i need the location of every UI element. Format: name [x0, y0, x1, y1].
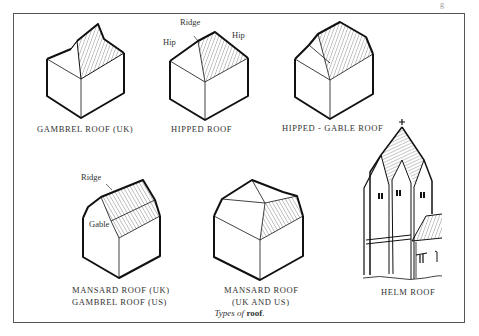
caption-mansard-uk-us-line2: (UK AND US) [232, 297, 290, 307]
caption-mansard-uk-line2: GAMBREL ROOF (US) [72, 297, 167, 307]
caption-gambrel-uk: GAMBREL ROOF (UK) [37, 124, 133, 134]
caption-mansard-uk-us-line1: MANSARD ROOF [224, 285, 299, 295]
mansard-uk-us-drawing [214, 180, 303, 280]
hipped-drawing [170, 32, 248, 120]
figure-caption-prefix: Types of [215, 308, 245, 318]
annotation-hip-left: Hip [163, 37, 176, 47]
annotation-gable-mansard: Gable [89, 219, 109, 229]
figure-caption-suffix: . [262, 308, 264, 318]
annotation-ridge-mansard: Ridge [81, 172, 101, 182]
figure-caption-term: roof [246, 308, 262, 318]
helm-roof-drawing [363, 119, 442, 280]
caption-mansard-uk-line1: MANSARD ROOF (UK) [72, 285, 170, 295]
annotation-ridge-hipped: Ridge [180, 17, 200, 27]
hipped-gable-drawing [295, 22, 373, 119]
caption-hipped-gable: HIPPED - GABLE ROOF [282, 123, 383, 133]
caption-hipped: HIPPED ROOF [171, 124, 232, 134]
gambrel-uk-drawing [47, 24, 124, 118]
mansard-uk-drawing [83, 180, 160, 278]
annotation-hip-right: Hip [232, 30, 245, 40]
figure-caption: Types of roof. [0, 308, 479, 318]
caption-helm: HELM ROOF [381, 287, 435, 297]
